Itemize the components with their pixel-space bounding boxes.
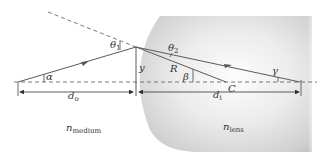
label-gamma: γ [272, 65, 278, 76]
label-y: y [138, 62, 145, 73]
label-C: C [228, 83, 236, 94]
incident-ray [18, 47, 136, 82]
normal-line [48, 12, 136, 47]
label-alpha: α [46, 71, 53, 82]
label-R: R [169, 63, 178, 74]
label-n-medium: nmedium [66, 122, 101, 135]
incident-ray-arrow-icon [81, 61, 89, 66]
label-beta: β [182, 71, 189, 82]
label-theta1: θ1 [110, 39, 121, 52]
refraction-diagram: θ1 θ2 α y R β C γ do di nmedium nlens [0, 0, 317, 159]
